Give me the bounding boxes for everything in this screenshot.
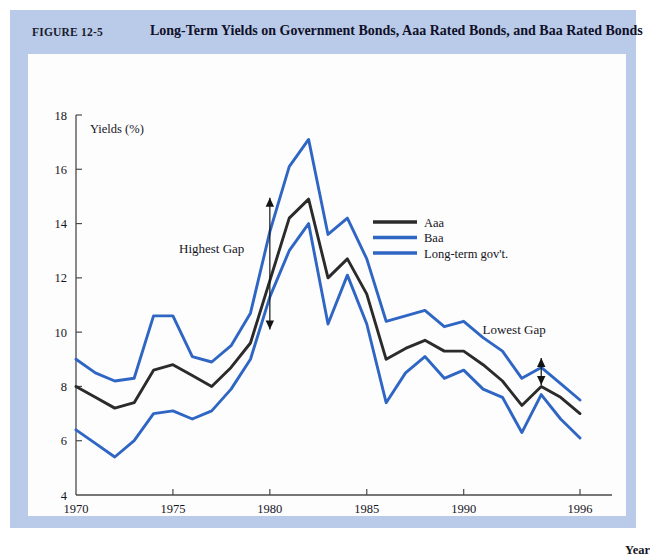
x-tick-label: 1975 xyxy=(160,502,185,516)
x-tick-label: 1990 xyxy=(451,502,476,516)
figure-title: Long-Term Yields on Government Bonds, Aa… xyxy=(150,23,643,39)
chart-panel: Yields (%) Year 468101214161819701975198… xyxy=(28,54,626,516)
y-tick-label: 6 xyxy=(61,434,67,448)
y-tick-label: 14 xyxy=(55,217,68,231)
x-axis-label: Year xyxy=(625,543,650,558)
figure-number: FIGURE 12-5 xyxy=(32,26,103,38)
y-tick-label: 4 xyxy=(61,489,68,503)
y-tick-label: 10 xyxy=(55,326,68,340)
legend-label-1: Baa xyxy=(424,231,444,245)
figure-frame: FIGURE 12-5 Long-Term Yields on Governme… xyxy=(10,10,636,528)
line-chart-plot: 4681012141618197019751980198519901996Hig… xyxy=(28,54,626,516)
y-tick-label: 18 xyxy=(55,109,68,123)
figure-header: FIGURE 12-5 Long-Term Yields on Governme… xyxy=(10,10,636,54)
legend-label-0: Aaa xyxy=(424,216,445,230)
x-tick-label: 1970 xyxy=(64,502,89,516)
legend-label-2: Long-term gov't. xyxy=(424,247,508,261)
series-line-baa xyxy=(76,139,580,400)
annotation-highest-gap: Highest Gap xyxy=(179,241,244,256)
x-tick-label: 1980 xyxy=(257,502,282,516)
x-tick-label: 1996 xyxy=(568,502,593,516)
x-tick-label: 1985 xyxy=(354,502,379,516)
y-tick-label: 12 xyxy=(55,271,68,285)
y-tick-label: 16 xyxy=(55,163,68,177)
y-tick-label: 8 xyxy=(61,380,67,394)
annotation-lowest-gap: Lowest Gap xyxy=(482,322,545,337)
